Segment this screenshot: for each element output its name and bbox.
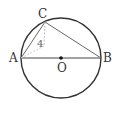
- label-c: C: [38, 7, 47, 21]
- label-length-4: 4: [37, 38, 43, 49]
- segment-cb: [45, 22, 101, 58]
- label-o: O: [57, 61, 67, 75]
- label-b: B: [103, 51, 112, 65]
- geometry-figure: A B C O 4: [0, 0, 122, 113]
- label-a: A: [8, 51, 18, 65]
- center-point-o: [59, 56, 63, 60]
- dashed-segment-cd: [44, 22, 45, 46]
